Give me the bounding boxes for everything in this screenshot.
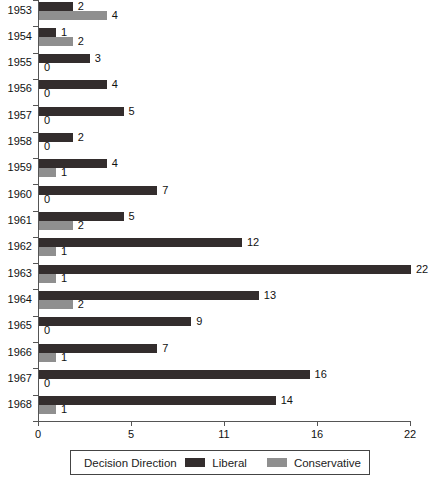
bar-value-label: 2 <box>78 220 84 231</box>
bar-value-label: 13 <box>264 290 276 301</box>
bar-liberal <box>39 107 124 116</box>
y-axis-tick <box>33 316 38 317</box>
y-axis-tick <box>33 211 38 212</box>
y-axis-tick <box>33 158 38 159</box>
plot-area: 0511162219532419541219553019564019575019… <box>0 0 429 478</box>
y-axis-tick <box>33 395 38 396</box>
bar-liberal <box>39 159 107 168</box>
bar-value-label: 0 <box>44 141 50 152</box>
bar-value-label: 1 <box>61 273 67 284</box>
bar-value-label: 2 <box>78 132 84 143</box>
y-axis-tick <box>33 26 38 27</box>
bar-conservative <box>39 11 107 20</box>
year-label: 1966 <box>0 347 32 358</box>
legend-swatch-liberal <box>185 458 205 467</box>
bar-liberal <box>39 317 191 326</box>
bar-conservative <box>39 353 56 362</box>
x-tick-label: 22 <box>398 428 422 440</box>
year-label: 1967 <box>0 373 32 384</box>
bar-value-label: 1 <box>61 167 67 178</box>
bar-value-label: 2 <box>78 299 84 310</box>
year-label: 1957 <box>0 110 32 121</box>
year-label: 1959 <box>0 162 32 173</box>
bar-value-label: 1 <box>61 352 67 363</box>
y-axis-tick <box>33 289 38 290</box>
year-label: 1963 <box>0 268 32 279</box>
bar-value-label: 9 <box>196 316 202 327</box>
year-label: 1965 <box>0 320 32 331</box>
y-axis-tick <box>33 53 38 54</box>
bar-liberal <box>39 2 73 11</box>
bar-liberal <box>39 265 411 274</box>
year-label: 1955 <box>0 57 32 68</box>
bar-conservative <box>39 405 56 414</box>
bar-value-label: 4 <box>112 10 118 21</box>
y-axis-tick <box>33 0 38 1</box>
y-axis-tick <box>33 263 38 264</box>
bar-conservative <box>39 37 73 46</box>
bar-value-label: 12 <box>247 237 259 248</box>
bar-value-label: 0 <box>44 88 50 99</box>
bar-value-label: 7 <box>162 185 168 196</box>
bar-value-label: 0 <box>44 325 50 336</box>
x-tick-label: 0 <box>26 428 50 440</box>
year-label: 1953 <box>0 5 32 16</box>
year-label: 1954 <box>0 31 32 42</box>
bar-value-label: 5 <box>129 211 135 222</box>
y-axis-tick <box>33 342 38 343</box>
bar-liberal <box>39 186 157 195</box>
year-label: 1968 <box>0 399 32 410</box>
bar-value-label: 0 <box>44 62 50 73</box>
bar-value-label: 22 <box>416 264 428 275</box>
bar-value-label: 7 <box>162 343 168 354</box>
chart-container: 0511162219532419541219553019564019575019… <box>0 0 429 478</box>
bar-liberal <box>39 238 242 247</box>
bar-liberal <box>39 396 276 405</box>
year-label: 1960 <box>0 189 32 200</box>
x-axis-tick <box>224 421 225 426</box>
bar-liberal <box>39 28 56 37</box>
y-axis-tick <box>33 368 38 369</box>
x-tick-label: 16 <box>305 428 329 440</box>
y-axis-tick <box>33 184 38 185</box>
bar-value-label: 3 <box>95 53 101 64</box>
bar-conservative <box>39 221 73 230</box>
x-axis-tick <box>131 421 132 426</box>
y-axis-tick <box>33 237 38 238</box>
bar-value-label: 0 <box>44 194 50 205</box>
x-axis-tick <box>317 421 318 426</box>
bar-value-label: 2 <box>78 36 84 47</box>
year-label: 1962 <box>0 241 32 252</box>
bar-liberal <box>39 291 259 300</box>
y-axis-tick <box>33 132 38 133</box>
legend-label-conservative: Conservative <box>294 457 361 469</box>
year-label: 1964 <box>0 294 32 305</box>
bar-value-label: 16 <box>315 369 327 380</box>
year-label: 1961 <box>0 215 32 226</box>
bar-value-label: 4 <box>112 79 118 90</box>
x-tick-label: 5 <box>119 428 143 440</box>
y-axis-tick <box>33 79 38 80</box>
bar-value-label: 1 <box>61 246 67 257</box>
legend-label-liberal: Liberal <box>212 457 247 469</box>
x-axis-tick <box>38 421 39 426</box>
bar-value-label: 14 <box>281 395 293 406</box>
bar-value-label: 5 <box>129 106 135 117</box>
bar-conservative <box>39 168 56 177</box>
bar-conservative <box>39 300 73 309</box>
x-tick-label: 11 <box>212 428 236 440</box>
bar-value-label: 4 <box>112 158 118 169</box>
legend-swatch-conservative <box>267 458 287 467</box>
bar-conservative <box>39 247 56 256</box>
year-label: 1958 <box>0 136 32 147</box>
bar-liberal <box>39 344 157 353</box>
bar-conservative <box>39 274 56 283</box>
year-label: 1956 <box>0 83 32 94</box>
x-axis-tick <box>410 421 411 426</box>
bar-value-label: 0 <box>44 115 50 126</box>
bar-liberal <box>39 370 310 379</box>
y-axis-tick <box>33 105 38 106</box>
bar-value-label: 1 <box>61 404 67 415</box>
legend-title: Decision Direction <box>84 457 177 469</box>
legend: Decision Direction Liberal Conservative <box>70 450 370 475</box>
